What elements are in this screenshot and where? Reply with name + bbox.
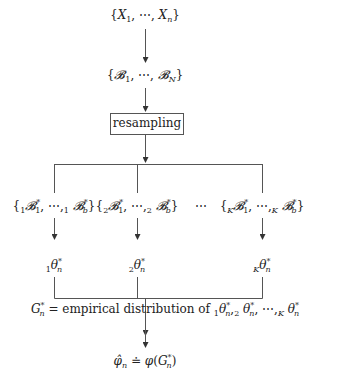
result-node: φ̂n ≐ φ(G*n) [114, 354, 177, 368]
final-arrow [0, 0, 346, 386]
